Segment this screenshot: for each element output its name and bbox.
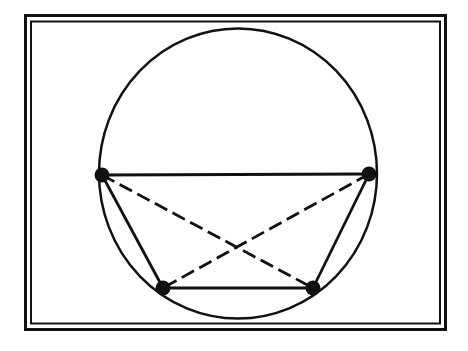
quadrilateral-sides — [102, 174, 369, 288]
dashed-diagonals — [102, 174, 369, 288]
vertex-C — [306, 281, 321, 296]
vertex-D — [156, 281, 171, 296]
diagonal-BD — [163, 174, 369, 288]
side-AB — [102, 174, 369, 175]
vertex-A — [95, 168, 110, 183]
vertices — [95, 167, 377, 296]
vertex-B — [362, 167, 377, 182]
frame-inner-border — [31, 22, 440, 324]
cyclic-quadrilateral-diagram — [0, 0, 468, 351]
frame-outer-border — [26, 16, 446, 330]
